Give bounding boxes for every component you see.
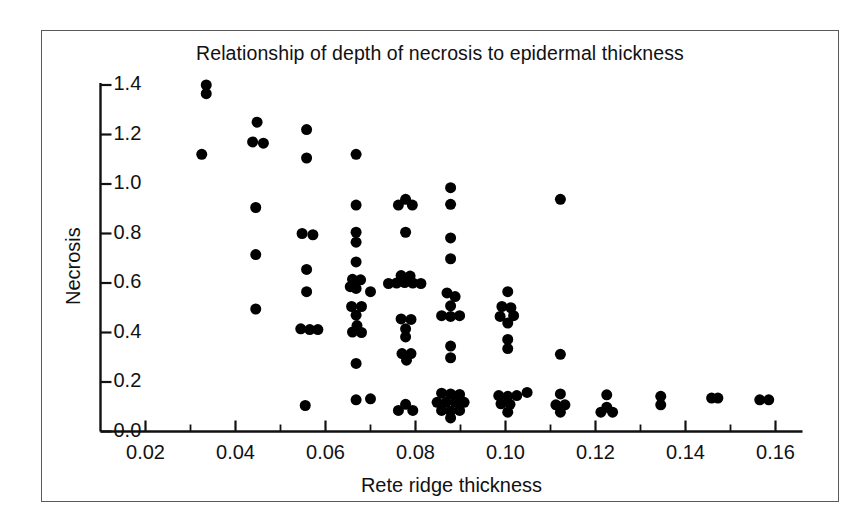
data-points-group <box>196 80 774 424</box>
data-point <box>400 227 411 238</box>
x-tick-label: 0.04 <box>196 441 276 464</box>
x-tick-label: 0.08 <box>376 441 456 464</box>
data-point <box>301 153 312 164</box>
x-tick-label: 0.14 <box>646 441 726 464</box>
data-point <box>445 412 456 423</box>
data-point <box>345 281 356 292</box>
scatter-plot-figure: Relationship of depth of necrosis to epi… <box>0 0 863 531</box>
x-tick-label: 0.06 <box>286 441 366 464</box>
data-point <box>502 343 513 354</box>
x-tick-label: 0.02 <box>106 441 186 464</box>
data-point <box>300 400 311 411</box>
data-point <box>301 286 312 297</box>
data-point <box>365 393 376 404</box>
data-point <box>445 341 456 352</box>
data-point <box>406 314 417 325</box>
data-point <box>312 324 323 335</box>
data-point <box>351 227 362 238</box>
data-point <box>351 358 362 369</box>
data-point <box>250 249 261 260</box>
data-point <box>351 200 362 211</box>
x-tick-label: 0.10 <box>466 441 546 464</box>
y-tick-label: 1.2 <box>114 122 142 145</box>
data-point <box>393 200 404 211</box>
data-point <box>445 253 456 264</box>
data-point <box>196 149 207 160</box>
data-point <box>502 318 513 329</box>
data-point <box>301 264 312 275</box>
data-point <box>250 303 261 314</box>
data-point <box>401 355 412 366</box>
data-point <box>555 388 566 399</box>
data-point <box>655 399 666 410</box>
y-tick-label: 0.2 <box>114 369 142 392</box>
data-point <box>445 232 456 243</box>
y-tick-label: 0.8 <box>114 221 142 244</box>
x-axis-label: Rete ridge thickness <box>61 474 843 497</box>
data-point <box>393 405 404 416</box>
data-point <box>400 331 411 342</box>
data-point <box>365 286 376 297</box>
data-point <box>511 390 522 401</box>
data-point <box>454 405 465 416</box>
data-point <box>250 202 261 213</box>
data-point <box>415 278 426 289</box>
data-point <box>555 407 566 418</box>
data-point <box>405 271 416 282</box>
data-point <box>297 228 308 239</box>
data-point <box>351 256 362 267</box>
data-point <box>301 124 312 135</box>
x-tick-label: 0.12 <box>556 441 636 464</box>
data-point <box>407 200 418 211</box>
data-point <box>502 407 513 418</box>
y-tick-label: 0.6 <box>114 270 142 293</box>
data-point <box>445 182 456 193</box>
data-point <box>351 394 362 405</box>
y-tick-label: 1.0 <box>114 171 142 194</box>
data-point <box>763 394 774 405</box>
data-point <box>445 199 456 210</box>
data-point <box>445 300 456 311</box>
data-point <box>351 149 362 160</box>
data-point <box>407 405 418 416</box>
data-point <box>502 286 513 297</box>
data-point <box>522 387 533 398</box>
data-point <box>396 313 407 324</box>
data-point <box>351 310 362 321</box>
data-point <box>555 194 566 205</box>
y-tick-label: 0.0 <box>114 419 142 442</box>
data-point <box>258 138 269 149</box>
data-point <box>601 389 612 400</box>
data-point <box>247 136 258 147</box>
y-tick-label: 1.4 <box>114 72 142 95</box>
data-point <box>307 229 318 240</box>
y-axis-label: Necrosis <box>62 227 85 305</box>
data-point <box>454 310 465 321</box>
data-point <box>712 393 723 404</box>
x-tick-label: 0.16 <box>736 441 816 464</box>
data-point <box>595 407 606 418</box>
data-point <box>445 352 456 363</box>
data-point <box>555 349 566 360</box>
data-point <box>252 117 263 128</box>
y-tick-label: 0.4 <box>114 320 142 343</box>
data-point <box>351 237 362 248</box>
data-point <box>352 320 363 331</box>
data-point <box>201 88 212 99</box>
data-point <box>607 407 618 418</box>
